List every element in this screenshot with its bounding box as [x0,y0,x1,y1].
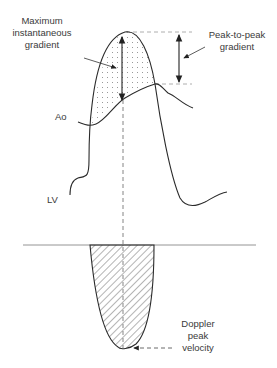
gradient-area [92,32,155,125]
p2p-gradient-label: Peak-to-peak gradient [200,29,274,53]
lv-label: LV [47,194,58,206]
doppler-envelope [90,245,154,349]
ao-label: Ao [55,111,67,123]
max-gradient-label: Maximum instantaneous gradient [4,15,80,51]
pressure-gradient-diagram [0,0,277,368]
doppler-peak-label: Doppler peak velocity [175,318,221,354]
